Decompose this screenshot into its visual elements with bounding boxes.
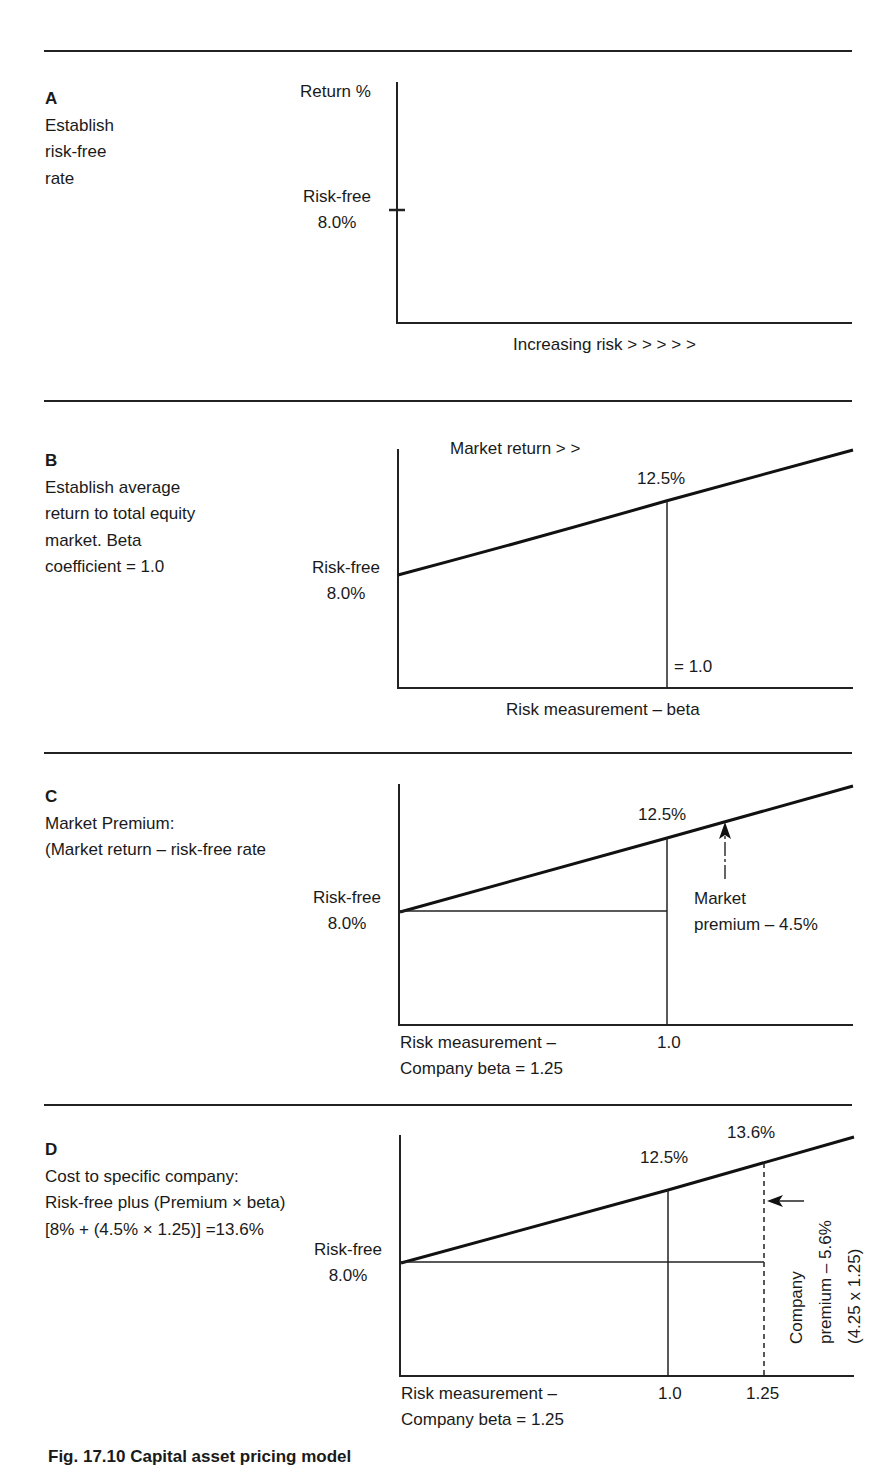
figure-caption: Fig. 17.10 Capital asset pricing model [48, 1447, 351, 1467]
panel-d-x-tick-label-2: 1.25 [746, 1381, 779, 1407]
x-axis-label-line: Risk measurement – [401, 1381, 621, 1407]
panel-d-x-axis-label: Risk measurement – Company beta = 1.25 [401, 1381, 621, 1433]
panel-d-company-premium-label: Company premium – 5.6% (4.25 x 1.25) [782, 1220, 869, 1344]
company-premium-value: premium – 5.6% [811, 1220, 840, 1344]
panel-d-x-tick-label-1: 1.0 [658, 1381, 682, 1407]
x-axis-label-line: Company beta = 1.25 [401, 1407, 621, 1433]
company-premium-text: Company [782, 1220, 811, 1344]
company-premium-formula: (4.25 x 1.25) [840, 1220, 869, 1344]
